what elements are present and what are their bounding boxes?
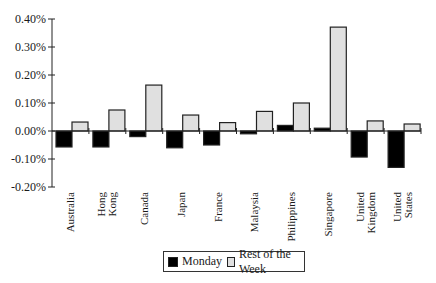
y-tick-label: 0.00% (0, 125, 46, 137)
bar-rest-of-week (367, 121, 383, 131)
y-tick-label: 0.30% (0, 41, 46, 53)
x-tick-label: Hong Kong (96, 192, 118, 262)
bar-rest-of-week (293, 103, 309, 131)
x-tick-label: Singapore (323, 192, 334, 262)
legend-label-rest: Rest of the Week (239, 247, 299, 277)
bar-chart: 0.40%0.30%0.20%0.10%0.00%-0.10%-0.20% Au… (0, 0, 436, 283)
bar-monday (56, 131, 72, 147)
y-tick-label: -0.20% (0, 181, 46, 193)
legend-label-monday: Monday (182, 254, 222, 269)
bar-rest-of-week (109, 110, 125, 131)
bar-monday (277, 125, 293, 131)
bar-monday (167, 131, 183, 148)
y-tick-label: 0.10% (0, 97, 46, 109)
y-tick-label: 0.40% (0, 13, 46, 25)
bar-monday (93, 131, 109, 147)
bar-rest-of-week (220, 123, 236, 131)
y-tick-label: -0.10% (0, 153, 46, 165)
y-tick-label: 0.20% (0, 69, 46, 81)
legend-swatch-monday (168, 257, 178, 267)
bar-rest-of-week (257, 111, 273, 131)
legend-item-rest: Rest of the Week (227, 247, 299, 277)
bar-monday (130, 131, 146, 137)
bar-rest-of-week (404, 124, 420, 131)
legend: Monday Rest of the Week (163, 251, 305, 272)
bar-rest-of-week (330, 27, 346, 131)
x-tick-label: United Kingdom (355, 192, 377, 262)
x-tick-label: Australia (65, 192, 76, 262)
x-tick-label: United States (392, 192, 414, 262)
legend-item-monday: Monday (168, 254, 222, 269)
bar-monday (204, 131, 220, 145)
x-tick-label: Canada (139, 192, 150, 262)
bar-rest-of-week (146, 85, 162, 131)
bar-monday (388, 131, 404, 167)
bar-rest-of-week (72, 122, 88, 131)
legend-swatch-rest (227, 257, 235, 267)
bar-monday (351, 131, 367, 157)
bar-rest-of-week (183, 115, 199, 131)
